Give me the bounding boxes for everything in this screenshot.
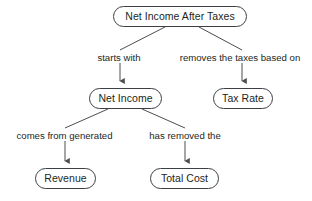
edge-comes-from-generated-diagonal [65, 109, 108, 128]
node-net-income-after-taxes[interactable]: Net Income After Taxes [113, 6, 247, 27]
node-revenue[interactable]: Revenue [35, 168, 96, 189]
edge-label-comes-from-generated: comes from generated [6, 131, 123, 141]
node-tax-rate[interactable]: Tax Rate [213, 88, 273, 109]
concept-map-canvas: Net Income After Taxes Net Income Tax Ra… [0, 0, 312, 201]
edge-removes-the-taxes-based-on-diagonal [199, 27, 242, 50]
node-net-income-label: Net Income [98, 93, 152, 104]
edge-label-has-removed-the: has removed the [141, 131, 229, 141]
node-total-cost[interactable]: Total Cost [150, 168, 219, 189]
node-revenue-label: Revenue [44, 173, 86, 184]
edge-has-removed-the-diagonal [142, 109, 185, 128]
node-tax-rate-label: Tax Rate [222, 93, 264, 104]
node-net-income[interactable]: Net Income [89, 88, 162, 109]
node-total-cost-label: Total Cost [161, 173, 208, 184]
edge-starts-with-diagonal [120, 27, 165, 50]
edge-label-removes-the-taxes-based-on: removes the taxes based on [167, 53, 312, 63]
edge-label-starts-with: starts with [89, 53, 149, 63]
node-net-income-after-taxes-label: Net Income After Taxes [125, 11, 234, 22]
